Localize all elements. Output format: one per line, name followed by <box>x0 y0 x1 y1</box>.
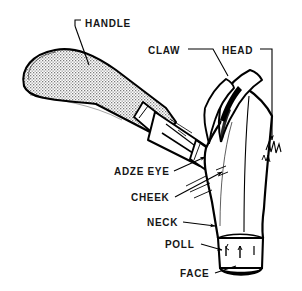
label-head: HEAD <box>222 45 253 56</box>
leader-neck <box>183 222 215 226</box>
hammer-parts-diagram: HANDLE CLAW HEAD ADZE EYE CHEEK NECK POL… <box>0 0 302 291</box>
label-face: FACE <box>180 268 209 279</box>
label-poll: POLL <box>165 239 194 250</box>
label-claw: CLAW <box>148 45 180 56</box>
label-adze-eye: ADZE EYE <box>114 166 170 177</box>
hammer-illustration <box>0 0 302 291</box>
leader-handle <box>75 20 81 26</box>
label-cheek: CHEEK <box>131 192 170 203</box>
label-neck: NECK <box>147 217 178 228</box>
hammer-poll <box>218 234 263 268</box>
label-handle: HANDLE <box>85 18 131 29</box>
